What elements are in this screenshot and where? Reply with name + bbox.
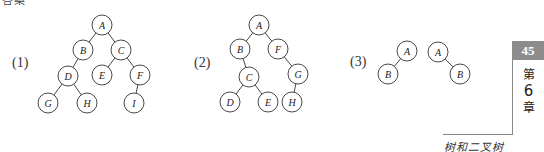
tree-node-label: G	[44, 98, 51, 109]
page-number-badge: 45	[512, 41, 544, 60]
tree-edge-A-B	[246, 33, 253, 41]
binary-tree-figures: ABCDEFGHIABFCGDEHABAB	[0, 0, 544, 152]
tree-node-label: B	[457, 69, 463, 80]
chapter-number: 6	[524, 83, 534, 100]
tree-edge-C-D	[236, 85, 243, 94]
tree-node-label: F	[136, 70, 144, 81]
tree-figure-2: ABFCGDEH	[220, 15, 308, 112]
tree-node-label: B	[385, 69, 391, 80]
tree-node-label: H	[287, 97, 296, 108]
tree-edge-C-E	[108, 58, 115, 67]
tree-node-label: A	[403, 46, 411, 57]
tree-figure-1: ABCDEFGHI	[38, 15, 150, 113]
tree-edge-G-H	[294, 84, 296, 92]
tree-edge-A-B	[394, 59, 400, 67]
tree-node-label: E	[264, 97, 271, 108]
tree-figure-4: AB	[428, 42, 470, 84]
tree-node-label: D	[225, 97, 234, 108]
chapter-title: 树和二叉树	[444, 138, 504, 152]
tree-edge-A-B	[445, 59, 453, 67]
tree-edge-C-E	[255, 85, 262, 94]
tree-edge-F-I	[136, 85, 138, 93]
tree-node-label: G	[294, 69, 301, 80]
chapter-suffix: 章	[523, 100, 535, 116]
tree-edge-F-G	[284, 57, 292, 66]
tree-node-label: B	[237, 44, 243, 55]
tree-edge-B-D	[73, 59, 78, 68]
tree-node-label: B	[80, 45, 86, 56]
tree-edge-A-F	[265, 33, 272, 41]
tree-edge-B-C	[243, 59, 246, 68]
tree-node-label: D	[63, 71, 72, 82]
tree-edge-D-G	[54, 84, 62, 95]
tree-node-label: A	[98, 20, 106, 31]
tree-node-label: A	[434, 47, 442, 58]
tree-node-label: E	[98, 70, 105, 81]
tree-figure-3: AB	[378, 41, 417, 84]
tree-edge-D-H	[74, 84, 81, 95]
chapter-prefix: 第	[523, 67, 535, 83]
tree-node-label: H	[82, 98, 91, 109]
chapter-indicator: 第 6 章	[513, 67, 544, 116]
tree-node-label: A	[255, 20, 263, 31]
tree-edge-C-F	[127, 58, 134, 67]
tree-edge-A-C	[108, 33, 115, 42]
tree-node-label: I	[131, 98, 136, 109]
tree-node-label: C	[118, 45, 125, 56]
tree-node-label: C	[246, 72, 253, 83]
tree-node-label: F	[274, 44, 282, 55]
tree-edge-A-B	[89, 33, 96, 42]
footer-rule	[443, 134, 513, 135]
